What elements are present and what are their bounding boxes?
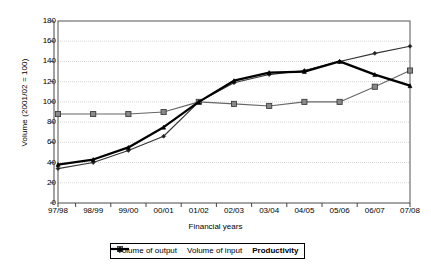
data-point	[372, 84, 377, 89]
series-line	[58, 61, 410, 164]
x-tick-label: 04/05	[294, 206, 314, 215]
x-tick-label: 00/01	[154, 206, 174, 215]
x-tick-label: 02/03	[224, 206, 244, 215]
x-tick-label: 01/02	[189, 206, 209, 215]
x-tick-label: 97/98	[48, 206, 68, 215]
x-tick-label: 99/00	[118, 206, 138, 215]
series-line	[58, 46, 410, 168]
chart-legend: Volume of outputVolume of inputProductiv…	[110, 243, 305, 259]
data-point	[55, 111, 60, 116]
x-tick-label: 07/08	[400, 206, 420, 215]
x-tick-label: 05/06	[330, 206, 350, 215]
legend-label: Productivity	[252, 246, 298, 256]
data-point	[267, 103, 272, 108]
data-point	[56, 167, 60, 171]
data-point	[407, 68, 412, 73]
x-tick-label: 06/07	[365, 206, 385, 215]
plot-border	[58, 21, 410, 203]
x-tick-label: 98/99	[83, 206, 103, 215]
data-point	[373, 51, 377, 55]
data-point	[161, 109, 166, 114]
legend-item: Productivity	[252, 246, 298, 256]
plot-area	[0, 0, 431, 276]
data-point	[126, 111, 131, 116]
series-line	[58, 71, 410, 114]
legend-item: Volume of input	[187, 246, 242, 256]
triangle-marker	[111, 244, 129, 254]
data-point	[302, 99, 307, 104]
data-point	[91, 111, 96, 116]
x-axis-title: Financial years	[0, 222, 431, 231]
chart-container: Volume (2001/02 = 100) 18016014012010080…	[0, 0, 431, 276]
legend-label: Volume of input	[187, 246, 242, 256]
data-point	[337, 99, 342, 104]
data-point	[408, 44, 412, 48]
x-tick-label: 03/04	[259, 206, 279, 215]
data-point	[231, 101, 236, 106]
